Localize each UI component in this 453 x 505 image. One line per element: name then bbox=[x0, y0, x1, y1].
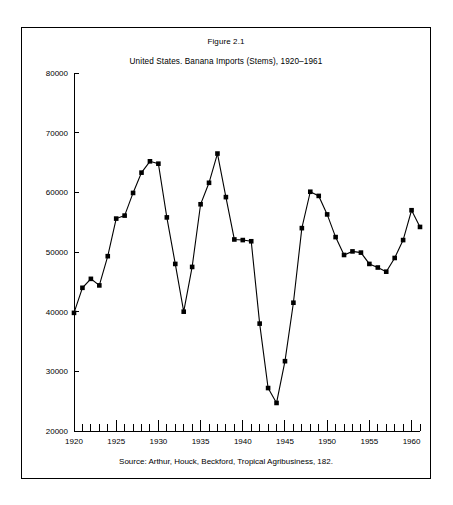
y-axis-tick-label: 60000 bbox=[46, 188, 69, 197]
data-point-marker bbox=[384, 269, 389, 274]
data-point-marker bbox=[376, 265, 381, 270]
y-axis: 20000300004000050000600007000080000 bbox=[46, 69, 79, 436]
source-note: Source: Arthur, Houck, Beckford, Tropica… bbox=[22, 457, 430, 467]
y-axis-tick-label: 50000 bbox=[46, 248, 69, 257]
data-point-marker bbox=[232, 237, 237, 242]
y-axis-tick-label: 20000 bbox=[46, 427, 69, 436]
data-point-marker bbox=[89, 277, 94, 282]
data-point-marker bbox=[401, 238, 406, 243]
data-point-marker bbox=[105, 254, 110, 259]
data-point-marker bbox=[300, 226, 305, 231]
data-point-marker bbox=[97, 283, 102, 288]
data-point-marker bbox=[266, 386, 271, 391]
data-point-marker bbox=[274, 401, 279, 406]
data-point-marker bbox=[308, 189, 313, 194]
data-point-marker bbox=[291, 300, 296, 305]
x-axis-tick-label: 1955 bbox=[360, 437, 378, 446]
data-point-marker bbox=[359, 250, 364, 255]
x-axis-tick-label: 1940 bbox=[234, 437, 252, 446]
x-axis-tick-label: 1920 bbox=[65, 437, 83, 446]
data-point-marker bbox=[114, 216, 119, 221]
data-point-marker bbox=[392, 256, 397, 261]
data-point-marker bbox=[249, 239, 254, 244]
x-axis-tick-label: 1930 bbox=[149, 437, 167, 446]
data-point-marker bbox=[80, 286, 85, 291]
y-axis-tick-label: 80000 bbox=[46, 69, 69, 78]
data-point-marker bbox=[131, 191, 136, 196]
data-point-marker bbox=[139, 170, 144, 175]
figure-frame: Figure 2.1 United States. Banana Imports… bbox=[21, 27, 431, 479]
data-point-marker bbox=[190, 265, 195, 270]
data-point-marker bbox=[215, 151, 220, 156]
data-point-marker bbox=[333, 235, 338, 240]
data-series-line bbox=[74, 154, 420, 403]
x-axis-tick-label: 1925 bbox=[107, 437, 125, 446]
y-axis-tick-label: 40000 bbox=[46, 308, 69, 317]
data-point-marker bbox=[72, 311, 77, 316]
data-point-marker bbox=[409, 208, 414, 213]
data-point-marker bbox=[148, 159, 153, 164]
data-point-marker bbox=[418, 225, 423, 230]
data-point-marker bbox=[165, 215, 170, 220]
x-axis-tick-label: 1935 bbox=[192, 437, 210, 446]
data-point-marker bbox=[122, 213, 127, 218]
data-point-marker bbox=[367, 262, 372, 267]
x-axis-tick-label: 1950 bbox=[318, 437, 336, 446]
data-point-marker bbox=[207, 180, 212, 185]
y-axis-tick-label: 30000 bbox=[46, 367, 69, 376]
y-axis-tick-label: 70000 bbox=[46, 129, 69, 138]
data-point-marker bbox=[181, 309, 186, 314]
data-point-marker bbox=[257, 321, 262, 326]
data-point-marker bbox=[224, 195, 229, 200]
data-point-marker bbox=[198, 202, 203, 207]
data-point-marker bbox=[240, 238, 245, 243]
data-point-marker bbox=[325, 212, 330, 217]
data-point-markers bbox=[72, 151, 423, 405]
data-point-marker bbox=[173, 262, 178, 267]
x-axis-tick-label: 1960 bbox=[403, 437, 421, 446]
data-point-marker bbox=[156, 161, 161, 166]
data-point-marker bbox=[283, 359, 288, 364]
x-axis-tick-label: 1945 bbox=[276, 437, 294, 446]
data-point-marker bbox=[316, 194, 321, 199]
x-axis: 192019251930193519401945195019551960 bbox=[65, 420, 421, 446]
data-point-marker bbox=[350, 249, 355, 254]
line-chart-plot: 20000300004000050000600007000080000 1920… bbox=[22, 28, 432, 480]
data-point-marker bbox=[342, 253, 347, 258]
